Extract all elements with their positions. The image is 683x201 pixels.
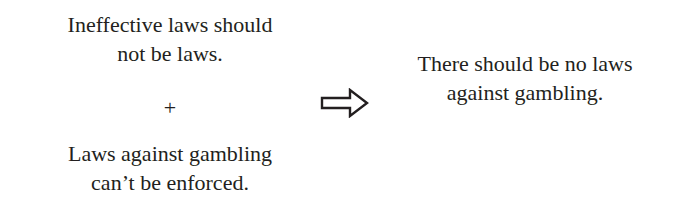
plus-operator: + <box>20 93 320 122</box>
conclusion-line-1: There should be no laws <box>375 49 675 78</box>
premise-1-line-2: not be laws. <box>20 39 320 68</box>
premise-2-line-2: can’t be enforced. <box>20 168 320 197</box>
right-arrow-icon <box>320 88 370 118</box>
premise-2: Laws against gambling can’t be enforced. <box>20 139 320 197</box>
premise-1: Ineffective laws should not be laws. <box>20 10 320 68</box>
conclusion: There should be no laws against gambling… <box>375 49 675 107</box>
conclusion-line-2: against gambling. <box>375 78 675 107</box>
premise-1-line-1: Ineffective laws should <box>20 10 320 39</box>
premise-2-line-1: Laws against gambling <box>20 139 320 168</box>
